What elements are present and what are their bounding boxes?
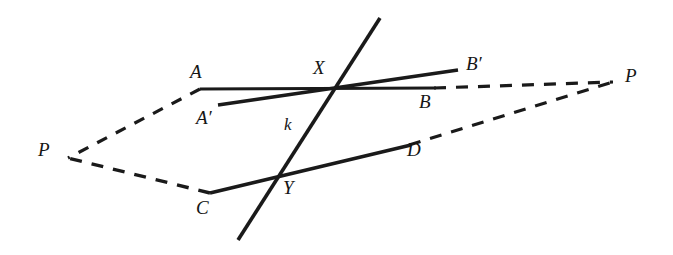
segment-b-to-p-right [434,82,613,88]
label-line-k: k [284,116,292,133]
label-point-p-left: P [38,140,50,159]
label-point-a-prime: A′ [196,108,212,127]
figure-canvas [0,0,673,255]
label-point-a: A [190,62,202,81]
label-point-b-prime: B′ [466,54,482,73]
label-point-p-right: P [625,66,637,85]
label-point-y: Y [283,178,294,197]
segment-d-to-p-right [409,82,613,145]
geometry-figure: A A′ X B′ B P P k D Y C [0,0,673,255]
label-point-x: X [313,58,325,77]
segment-a-to-p-left [68,89,200,158]
label-point-d: D [407,140,421,159]
segment-line-k [238,18,380,240]
segment-cd [210,145,411,193]
label-point-b: B [419,92,431,111]
label-point-c: C [196,198,209,217]
segment-c-to-p-left [68,158,210,193]
